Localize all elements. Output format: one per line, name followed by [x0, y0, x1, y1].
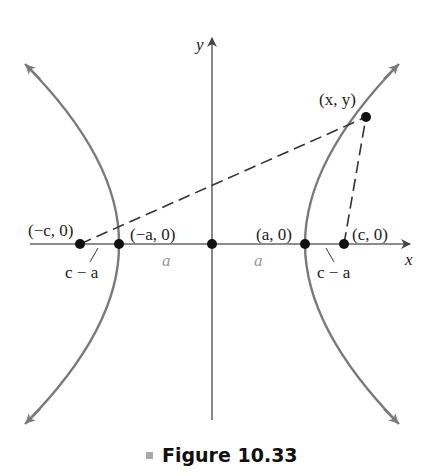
caption-marker-icon — [146, 452, 153, 459]
label-right-a: a — [254, 251, 263, 270]
label-xy: (x, y) — [319, 90, 356, 109]
label-right-c-minus-a: c − a — [317, 263, 351, 282]
dashed-line-left-focus — [80, 117, 366, 244]
point-neg-a — [114, 239, 124, 249]
label-left-a: a — [162, 251, 171, 270]
point-pos-a — [300, 239, 310, 249]
y-axis-label: y — [194, 35, 204, 54]
point-neg-c — [75, 239, 85, 249]
label-pos-a: (a, 0) — [256, 225, 292, 244]
label-pos-c: (c, 0) — [352, 225, 388, 244]
hyperbola-diagram: y x (−c, 0) (−a, 0) (a, 0) (c, 0) (x, y)… — [0, 0, 430, 476]
point-pos-c — [339, 239, 349, 249]
label-neg-a: (−a, 0) — [130, 225, 175, 244]
label-left-c-minus-a: c − a — [65, 263, 99, 282]
point-xy — [361, 112, 371, 122]
figure-caption: Figure 10.33 — [162, 444, 298, 466]
point-origin — [207, 239, 217, 249]
label-neg-c: (−c, 0) — [28, 221, 73, 240]
x-axis-label: x — [404, 250, 413, 269]
